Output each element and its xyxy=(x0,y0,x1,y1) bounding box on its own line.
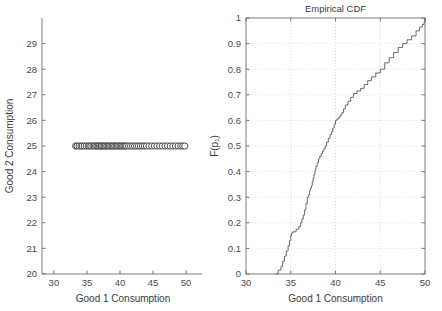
scatter-y-tick-label: 26 xyxy=(26,115,37,126)
scatter-x-tick-label: 45 xyxy=(148,277,159,288)
cdf-y-tick-label: 1 xyxy=(236,12,241,23)
scatter-y-tick-label: 22 xyxy=(26,217,37,228)
cdf-y-tick-label: 0.6 xyxy=(228,115,241,126)
cdf-y-tick-label: 0.9 xyxy=(228,38,241,49)
cdf-y-tick-label: 0.5 xyxy=(228,140,241,151)
scatter-y-tick-label: 29 xyxy=(26,38,37,49)
cdf-y-tick-label: 0.4 xyxy=(228,166,241,177)
cdf-x-tick-labels: 3035404550 xyxy=(241,277,431,288)
cdf-panel: 3035404550 00.10.20.30.40.50.60.70.80.91… xyxy=(209,3,430,304)
scatter-y-axis-label: Good 2 Consumption xyxy=(4,99,15,194)
scatter-tick-marks xyxy=(42,44,186,274)
scatter-y-tick-label: 25 xyxy=(26,140,37,151)
figure-svg: 3035404550 20212223242526272829 Good 1 C… xyxy=(0,0,442,311)
footer-ghost-text xyxy=(0,301,442,311)
cdf-x-tick-label: 40 xyxy=(330,277,341,288)
scatter-y-tick-label: 24 xyxy=(26,166,37,177)
cdf-x-tick-label: 35 xyxy=(285,277,296,288)
figure-container: 3035404550 20212223242526272829 Good 1 C… xyxy=(0,0,442,311)
scatter-x-tick-label: 35 xyxy=(82,277,93,288)
cdf-y-tick-labels: 00.10.20.30.40.50.60.70.80.91 xyxy=(228,12,241,279)
scatter-y-tick-labels: 20212223242526272829 xyxy=(26,38,37,279)
scatter-marker xyxy=(182,143,188,149)
cdf-x-tick-label: 45 xyxy=(375,277,386,288)
cdf-y-tick-label: 0 xyxy=(236,268,241,279)
cdf-axes-box xyxy=(246,18,425,274)
cdf-gridlines xyxy=(246,18,425,274)
scatter-y-tick-label: 27 xyxy=(26,89,37,100)
scatter-x-tick-label: 40 xyxy=(115,277,126,288)
cdf-y-tick-label: 0.8 xyxy=(228,64,241,75)
scatter-y-tick-label: 20 xyxy=(26,268,37,279)
scatter-data-points xyxy=(73,143,188,149)
scatter-y-tick-label: 23 xyxy=(26,192,37,203)
scatter-y-tick-label: 28 xyxy=(26,64,37,75)
cdf-y-tick-label: 0.1 xyxy=(228,243,241,254)
cdf-x-tick-label: 30 xyxy=(241,277,252,288)
scatter-x-tick-label: 50 xyxy=(181,277,192,288)
cdf-tick-marks xyxy=(246,18,425,274)
scatter-x-tick-label: 30 xyxy=(49,277,60,288)
cdf-y-tick-label: 0.7 xyxy=(228,89,241,100)
cdf-chart-title: Empirical CDF xyxy=(305,3,366,14)
cdf-x-tick-label: 50 xyxy=(420,277,431,288)
scatter-x-tick-labels: 3035404550 xyxy=(49,277,192,288)
scatter-y-tick-label: 21 xyxy=(26,243,37,254)
cdf-y-axis-label: F(p₁) xyxy=(209,135,220,157)
scatter-panel: 3035404550 20212223242526272829 Good 1 C… xyxy=(4,18,202,304)
cdf-y-tick-label: 0.2 xyxy=(228,217,241,228)
cdf-y-tick-label: 0.3 xyxy=(228,192,241,203)
